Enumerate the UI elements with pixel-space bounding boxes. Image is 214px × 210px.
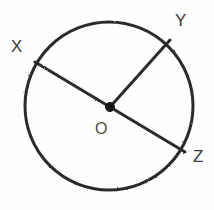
- radius-segment-oy: [110, 40, 170, 107]
- point-label-y: Y: [175, 12, 186, 29]
- point-label-z: Z: [193, 148, 203, 165]
- point-label-x: X: [11, 38, 22, 55]
- circle-diagram-figure: X Y Z O: [0, 0, 214, 210]
- center-point-dot: [106, 103, 115, 112]
- circle-diagram-canvas: [0, 0, 214, 210]
- center-label-o: O: [95, 120, 107, 137]
- radius-segment-ox: [35, 62, 110, 107]
- radius-segment-oz: [110, 107, 185, 152]
